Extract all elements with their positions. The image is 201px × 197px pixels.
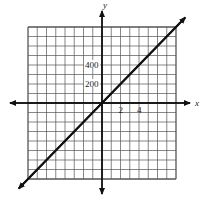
- y-tick-label: 400: [85, 60, 99, 70]
- coordinate-plane: xy 24200400: [0, 0, 201, 197]
- x-tick-label: 4: [137, 105, 142, 115]
- y-axis-label: y: [102, 0, 107, 10]
- axes: xy: [10, 0, 199, 194]
- x-tick-label: 2: [119, 105, 124, 115]
- y-tick-label: 200: [85, 79, 99, 89]
- x-axis-label: x: [194, 98, 199, 108]
